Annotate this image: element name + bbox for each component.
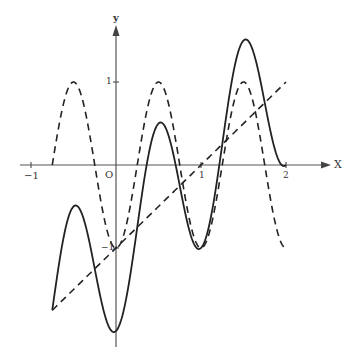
y-axis-label: y (113, 13, 119, 23)
tick-label-x-neg1: −1 (24, 171, 39, 181)
curve-sum (52, 39, 286, 332)
origin-label: O (105, 170, 113, 180)
curve-linear (52, 82, 286, 310)
axes (20, 28, 328, 347)
tick-label-y-neg1: −1 (101, 243, 114, 252)
y-axis-arrow-icon (113, 25, 120, 36)
tick-label-x-1: 1 (199, 171, 205, 180)
tick-label-x-2: 2 (283, 171, 289, 180)
function-plot (0, 0, 354, 357)
tick-label-y-1: 1 (106, 77, 112, 86)
x-axis-arrow-icon (321, 162, 331, 169)
x-axis-label: X (334, 159, 342, 170)
